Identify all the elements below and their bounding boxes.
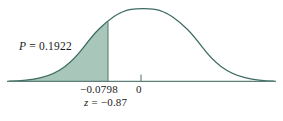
z-value: −0.87 (101, 96, 127, 108)
x-axis-value-label: −0.0798 (80, 84, 118, 95)
bell-curve-graphic (0, 0, 283, 121)
probability-label: P = 0.1922 (19, 41, 72, 53)
z-score-label: z = −0.87 (84, 97, 127, 108)
probability-equals: = (26, 40, 39, 52)
x-axis-origin-label: 0 (136, 84, 142, 95)
normal-distribution-figure: P = 0.1922 −0.0798 0 z = −0.87 (0, 0, 283, 121)
probability-value: 0.1922 (39, 40, 72, 52)
z-equals: = (88, 96, 100, 108)
